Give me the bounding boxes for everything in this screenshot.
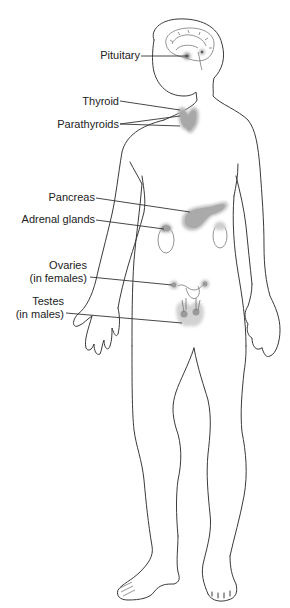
label-parathyroids: Parathyroids [57, 118, 119, 131]
label-ovaries: Ovaries (in females) [30, 259, 87, 285]
thyroid-gland [178, 107, 199, 133]
label-adrenal-glands: Adrenal glands [22, 213, 95, 226]
label-testes: Testes (in males) [16, 295, 64, 321]
testes [176, 298, 204, 326]
label-testes-line2: (in males) [16, 308, 64, 321]
torso-outline [74, 120, 281, 357]
endocrine-diagram: Pituitary Thyroid Parathyroids Pancreas … [0, 0, 290, 608]
brain-icon [166, 28, 214, 70]
legs-outline [117, 346, 246, 601]
label-ovaries-line2: (in females) [30, 272, 87, 285]
label-testes-line1: Testes [16, 295, 64, 308]
label-pancreas: Pancreas [49, 191, 95, 204]
pituitary-gland [184, 50, 205, 60]
label-pituitary: Pituitary [100, 49, 140, 62]
label-ovaries-line1: Ovaries [30, 259, 87, 272]
ovaries-uterus [170, 280, 209, 299]
label-thyroid: Thyroid [82, 95, 119, 108]
head-outline [153, 19, 249, 120]
